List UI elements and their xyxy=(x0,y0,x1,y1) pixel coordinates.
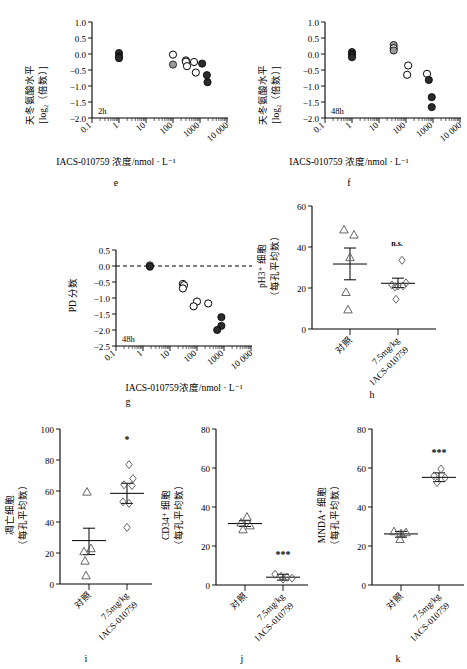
panel-f-ytick-1: 0.5 xyxy=(308,34,320,44)
panel-e-xtick-3: 100 xyxy=(158,120,175,137)
panel-h-ytick-2: 20 xyxy=(297,284,307,294)
panel-g-ytick-0: 0.5 xyxy=(99,246,111,256)
panel-f-points xyxy=(348,41,435,110)
panel-j-ytick-0: 80 xyxy=(201,425,211,435)
panel-h-ytick-3: 0 xyxy=(302,325,307,335)
panel-e-ytick-4: −1.0 xyxy=(70,82,87,92)
panel-e-points xyxy=(115,49,211,85)
panel-f-xlabel: IACS-010759 浓度/nmol · L⁻¹ xyxy=(289,156,409,167)
panel-f-inline-label: 48h xyxy=(331,106,345,116)
panel-j-yaxis-label: CD34⁺ 细胞 （每孔平均数） xyxy=(160,480,184,550)
panel-j-y-ticks xyxy=(212,429,216,585)
panel-g-ytick-4: −1.5 xyxy=(94,310,111,320)
panel-h-chart: pH3⁺ 细胞 （每孔平均数） 60 40 20 0 n.s. 对照 7.5mg… xyxy=(256,186,467,405)
panel-h-y-ticks xyxy=(308,206,312,329)
panel-e-ytick-2: 0.0 xyxy=(75,50,87,60)
panel-j-ytick-1: 60 xyxy=(201,464,211,474)
panel-e-ylabel-line1: 天冬氨酸水平 xyxy=(24,65,35,125)
panel-g-letter-wrap: g xyxy=(0,396,256,410)
panel-k-ylabel-line1: MNDA⁺ 细胞 xyxy=(316,487,327,543)
panel-j-ytick-4: 0 xyxy=(206,581,211,591)
panel-g-xtick-labels: 0.1 1 10 100 1000 10 000 xyxy=(102,348,254,372)
panel-h-significance: n.s. xyxy=(391,239,403,248)
panel-f-ytick-4: −1.0 xyxy=(303,82,320,92)
panel-f-xtick-3: 100 xyxy=(391,120,408,137)
panel-g-points xyxy=(146,262,225,334)
panel-f-ytick-3: −0.5 xyxy=(303,66,320,76)
panel-j-xtick-label-1: 对照 xyxy=(228,591,249,612)
panel-i-yaxis-label: 凋亡细胞 （每孔平均数） xyxy=(4,480,28,550)
panel-g-xtick-3: 100 xyxy=(182,348,199,365)
panel-f-ytick-2: 0.0 xyxy=(308,50,320,60)
panel-i-ytick-0: 100 xyxy=(41,425,55,435)
panel-f: 天冬氨酸水平 [log₂（倍数）] 1.0 0.5 0.0 −0.5 −1.0 … xyxy=(233,0,467,195)
panel-e-xtick-5: 10 000 xyxy=(205,120,231,144)
panel-e-chart: 天冬氨酸水平 [log₂（倍数）] 1.0 0.5 0.0 −0.5 −1.0 … xyxy=(0,0,233,195)
panel-e-xtick-labels: 0.1 1 10 100 1000 10 000 xyxy=(78,120,230,144)
panel-h-letter: h xyxy=(370,389,375,400)
panel-i-ytick-5: 0 xyxy=(50,580,55,590)
panel-f-ylabel-line2: [log₂（倍数）] xyxy=(270,67,281,124)
panel-g-inline-label: 48h xyxy=(122,334,136,344)
panel-j-ytick-2: 40 xyxy=(201,503,211,513)
panel-f-xtick-5: 10 000 xyxy=(438,120,464,144)
panel-h-ylabel-line2: （每孔平均数） xyxy=(269,231,280,301)
panel-j-ylabel-line2: （每孔平均数） xyxy=(173,480,184,550)
panel-g-xlabel: IACS-010759浓度/nmol · L⁻¹ xyxy=(125,382,242,393)
panel-i-points xyxy=(72,461,144,579)
panel-j-significance: *** xyxy=(276,549,291,560)
panel-h: pH3⁺ 细胞 （每孔平均数） 60 40 20 0 n.s. 对照 7.5mg… xyxy=(256,186,467,405)
panel-k-y-ticks xyxy=(368,429,372,585)
panel-i-ylabel-line1: 凋亡细胞 xyxy=(4,495,15,535)
panel-e-xlabel: IACS-010759 浓度/nmol · L⁻¹ xyxy=(56,156,176,167)
panel-e-ytick-3: −0.5 xyxy=(70,66,87,76)
panel-h-yaxis-label: pH3⁺ 细胞 （每孔平均数） xyxy=(256,231,280,301)
panel-k-ytick-4: 0 xyxy=(362,581,367,591)
panel-f-yaxis-label: 天冬氨酸水平 [log₂（倍数）] xyxy=(257,65,281,125)
panel-g-chart: PD 分数 0.5 0.0 −0.5 −1.0 −1.5 −2.0 −2.5 4… xyxy=(0,195,256,405)
panel-g: PD 分数 0.5 0.0 −0.5 −1.0 −1.5 −2.0 −2.5 4… xyxy=(0,195,256,405)
panel-e-yaxis-label: 天冬氨酸水平 [log₂（倍数）] xyxy=(24,65,48,125)
panel-i-letter: i xyxy=(85,653,88,664)
panel-f-xtick-4: 1000 xyxy=(414,120,435,140)
panel-k-chart: MNDA⁺ 细胞 （每孔平均数） 80 60 40 20 0 *** 对照 7.… xyxy=(312,410,467,669)
panel-g-ytick-1: 0.0 xyxy=(99,262,111,272)
panel-k-letter: k xyxy=(396,653,401,664)
panel-i-ytick-4: 20 xyxy=(45,549,55,559)
panel-e-inline-label: 2h xyxy=(98,106,107,116)
panel-i-xtick-label-1: 对照 xyxy=(72,590,93,611)
panel-h-ytick-0: 60 xyxy=(297,202,307,212)
panel-f-ylabel-line1: 天冬氨酸水平 xyxy=(257,65,268,125)
panel-j: CD34⁺ 细胞 （每孔平均数） 80 60 40 20 0 *** 对照 7.… xyxy=(156,410,312,669)
panel-h-xtick-label-1: 对照 xyxy=(333,335,354,356)
panel-e-xtick-4: 1000 xyxy=(181,120,202,140)
panel-g-ytick-2: −0.5 xyxy=(94,278,111,288)
panel-f-chart: 天冬氨酸水平 [log₂（倍数）] 1.0 0.5 0.0 −0.5 −1.0 … xyxy=(233,0,467,195)
panel-f-xtick-labels: 0.1 1 10 100 1000 10 000 xyxy=(311,120,463,144)
panel-e-ytick-0: 1.0 xyxy=(75,18,87,28)
panel-k-xtick-label-1: 对照 xyxy=(384,591,405,612)
panel-i-significance: * xyxy=(125,434,130,445)
panel-g-xtick-5: 10 000 xyxy=(229,348,255,372)
panel-f-ytick-0: 1.0 xyxy=(308,18,320,28)
panel-f-ytick-5: −1.5 xyxy=(303,98,320,108)
panel-i-ylabel-line2: （每孔平均数） xyxy=(17,480,28,550)
panel-j-points xyxy=(228,513,300,584)
panel-k-ytick-3: 20 xyxy=(357,542,367,552)
panel-g-letter: g xyxy=(0,396,256,407)
panel-i-ytick-2: 60 xyxy=(45,487,55,497)
panel-g-ytick-3: −1.0 xyxy=(94,294,111,304)
panel-i: 凋亡细胞 （每孔平均数） 100 80 60 40 20 0 * 对照 7.5m… xyxy=(0,410,156,669)
panel-k-yaxis-label: MNDA⁺ 细胞 （每孔平均数） xyxy=(316,480,340,550)
panel-k-ytick-1: 60 xyxy=(357,464,367,474)
panel-k: MNDA⁺ 细胞 （每孔平均数） 80 60 40 20 0 *** 对照 7.… xyxy=(312,410,467,669)
panel-e-letter: e xyxy=(114,177,119,188)
panel-g-xtick-4: 1000 xyxy=(205,348,226,368)
panel-i-ytick-1: 80 xyxy=(45,456,55,466)
panel-e-ytick-5: −1.5 xyxy=(70,98,87,108)
panel-j-letter: j xyxy=(240,653,244,664)
panel-g-ytick-5: −2.0 xyxy=(94,326,111,336)
panel-k-ytick-2: 40 xyxy=(357,503,367,513)
panel-i-y-ticks xyxy=(56,429,60,584)
panel-j-ytick-3: 20 xyxy=(201,542,211,552)
